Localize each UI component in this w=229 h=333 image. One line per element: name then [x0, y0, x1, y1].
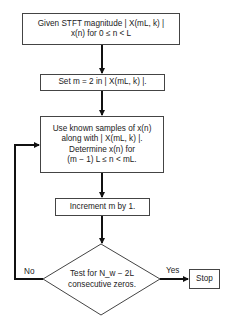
node-test-line-2: consecutive zeros. — [55, 279, 149, 290]
node-estimate-line-2: along with | X(mL, k) |. — [61, 134, 142, 145]
node-test-line-1: Test for N_w − 2L — [55, 268, 149, 279]
node-start-line-2: x(n) for 0 ≤ n < L — [71, 29, 131, 40]
node-estimate-line-1: Use known samples of x(n) — [53, 124, 152, 135]
label-yes: Yes — [166, 266, 179, 276]
node-estimate: Use known samples of x(n) along with | X… — [40, 116, 164, 173]
node-start: Given STFT magnitude | X(mL, k) | x(n) f… — [22, 13, 180, 45]
label-no: No — [24, 267, 34, 277]
node-stop-label: Stop — [196, 274, 213, 285]
arrow-no-loop — [15, 145, 43, 279]
node-increment: Increment m by 1. — [55, 198, 150, 216]
node-start-line-1: Given STFT magnitude | X(mL, k) | — [38, 19, 165, 30]
node-increment-label: Increment m by 1. — [70, 202, 136, 213]
node-test-text: Test for N_w − 2L consecutive zeros. — [55, 268, 149, 290]
node-init: Set m = 2 in | X(mL, k) |. — [40, 74, 165, 91]
node-stop: Stop — [189, 269, 220, 289]
node-estimate-line-4: (m − 1) L ≤ n < mL. — [67, 155, 136, 166]
node-estimate-line-3: Determine x(n) for — [69, 145, 135, 156]
node-init-label: Set m = 2 in | X(mL, k) |. — [58, 77, 146, 88]
